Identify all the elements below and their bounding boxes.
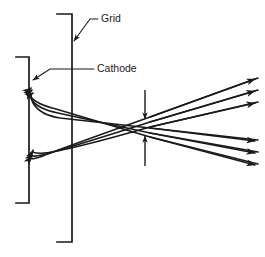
beam-exit-arrows-upper (150, 79, 255, 127)
cathode-leader-line (33, 69, 94, 80)
cathode-annotation: Cathode (33, 62, 137, 80)
cathode-electrode (16, 57, 29, 203)
cathode-label: Cathode (97, 62, 137, 74)
grid-electrode (57, 14, 72, 242)
electron-gun-diagram: Grid Cathode (0, 0, 265, 257)
grid-label: Grid (101, 12, 121, 24)
beam-exit-lower-1 (150, 128, 255, 141)
grid-leader-line (74, 19, 98, 41)
beam-exit-upper-1 (150, 79, 255, 117)
diagram-canvas: Grid Cathode (0, 0, 265, 257)
grid-annotation: Grid (74, 12, 121, 41)
beam-exit-lower-3 (150, 137, 255, 165)
